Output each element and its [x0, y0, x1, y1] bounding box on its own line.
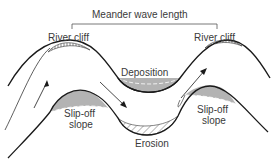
slip-off-left-label-line2: slope: [69, 119, 93, 130]
slip-off-left-label-line1: Slip-off: [64, 108, 95, 119]
slip-off-right-label-line2: slope: [202, 115, 226, 126]
erosion-area: [118, 116, 178, 135]
wavelength-label: Meander wave length: [92, 9, 188, 20]
erosion-label: Erosion: [135, 138, 169, 149]
meander-drawing: [0, 0, 275, 161]
deposition-label: Deposition: [121, 67, 168, 78]
flow-arrow-left: [34, 80, 49, 108]
slip-off-right-label-line1: Slip-off: [197, 104, 228, 115]
river-cliff-right-label: River cliff: [194, 32, 235, 43]
river-cliff-left-hatch: [48, 43, 90, 52]
meander-diagram: Meander wave length River cliff River cl…: [0, 0, 275, 161]
river-cliff-left-label: River cliff: [48, 32, 89, 43]
wavelength-bracket: [72, 24, 217, 29]
